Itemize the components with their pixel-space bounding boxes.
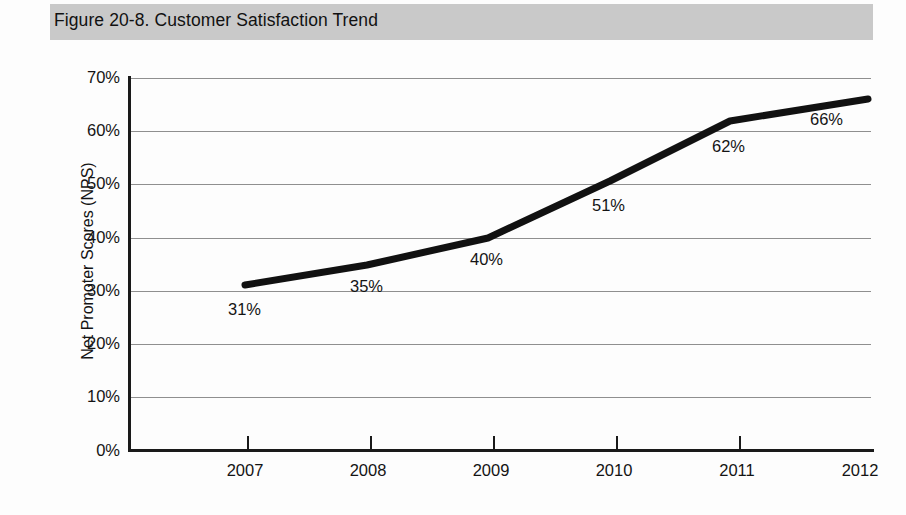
x-tick-label-2007: 2007 <box>200 461 290 480</box>
figure-container: Figure 20-8. Customer Satisfaction Trend… <box>0 0 906 515</box>
y-axis-tick-labels: 70% 60% 50% 40% 30% 20% 10% 0% <box>58 0 120 515</box>
x-tick-4 <box>616 436 618 450</box>
data-label-2011: 62% <box>712 137 745 156</box>
x-tick-label-2011: 2011 <box>692 461 782 480</box>
gridline-20 <box>131 344 871 345</box>
line-chart: Net Promoter Scores (NPS) 70% 60% 50% 40… <box>0 0 906 515</box>
x-tick-label-2008: 2008 <box>323 461 413 480</box>
y-tick-label-70: 70% <box>60 68 120 87</box>
gridline-40 <box>131 238 871 239</box>
y-tick-label-20: 20% <box>60 334 120 353</box>
x-tick-1 <box>247 436 249 450</box>
data-label-2008: 35% <box>350 277 383 296</box>
y-tick-label-50: 50% <box>60 174 120 193</box>
x-tick-3 <box>493 436 495 450</box>
x-tick-label-2009: 2009 <box>446 461 536 480</box>
gridline-30 <box>131 291 871 292</box>
x-tick-label-2010: 2010 <box>569 461 659 480</box>
data-label-2009: 40% <box>470 250 503 269</box>
data-label-2007: 31% <box>228 300 261 319</box>
data-label-2012: 66% <box>810 110 843 129</box>
gridline-10 <box>131 397 871 398</box>
x-tick-5 <box>739 436 741 450</box>
data-label-2010: 51% <box>592 196 625 215</box>
gridline-60 <box>131 131 871 132</box>
y-tick-label-0: 0% <box>60 441 120 460</box>
y-axis-line <box>128 76 131 452</box>
gridline-70 <box>131 78 871 79</box>
x-tick-2 <box>370 436 372 450</box>
x-tick-label-2012: 2012 <box>815 461 905 480</box>
y-tick-label-60: 60% <box>60 121 120 140</box>
x-axis-line <box>128 449 874 452</box>
y-tick-label-40: 40% <box>60 228 120 247</box>
y-tick-label-10: 10% <box>60 387 120 406</box>
y-tick-label-30: 30% <box>60 281 120 300</box>
gridline-50 <box>131 184 871 185</box>
